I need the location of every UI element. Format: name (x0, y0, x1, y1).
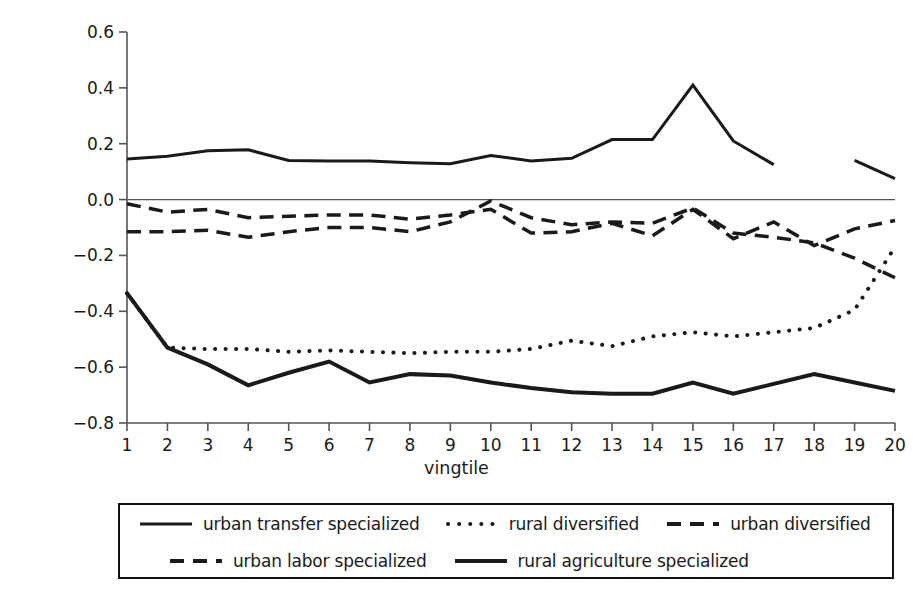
chart-figure: equivalent variation as a % of income 0.… (0, 0, 913, 608)
x-tick-label: 14 (642, 435, 664, 455)
series-line-0 (855, 160, 895, 178)
x-tick-label: 7 (364, 435, 375, 455)
series-line-4 (127, 293, 895, 394)
x-tick-label: 15 (682, 435, 704, 455)
plot-area: 0.60.40.20.0−0.2−0.4−0.6−0.8123456789101… (0, 0, 913, 500)
legend-item[interactable]: rural agriculture specialized (453, 551, 749, 571)
legend-item[interactable]: urban labor specialized (168, 551, 427, 571)
x-tick-label: 17 (763, 435, 785, 455)
x-tick-label: 16 (722, 435, 744, 455)
y-tick-label: 0.4 (87, 78, 114, 98)
y-tick-label: −0.6 (73, 357, 114, 377)
legend-item[interactable]: urban diversified (665, 514, 870, 534)
legend-item-label: rural diversified (509, 514, 639, 534)
series-line-1 (127, 247, 895, 353)
y-tick-label: 0.6 (87, 22, 114, 42)
x-tick-label: 19 (844, 435, 866, 455)
legend-swatch-dashed (168, 554, 224, 568)
y-tick-label: 0.0 (87, 190, 114, 210)
x-tick-label: 11 (520, 435, 542, 455)
x-tick-label: 4 (243, 435, 254, 455)
x-tick-label: 12 (561, 435, 583, 455)
x-tick-label: 10 (480, 435, 502, 455)
y-tick-label: −0.2 (73, 245, 114, 265)
series-line-3 (127, 201, 895, 278)
x-tick-label: 8 (405, 435, 416, 455)
x-tick-label: 5 (283, 435, 294, 455)
legend-row: urban transfer specializedrural diversif… (120, 505, 892, 542)
x-tick-label: 20 (884, 435, 906, 455)
legend-swatch-solid (138, 517, 194, 531)
series-line-0 (127, 85, 774, 165)
x-tick-label: 6 (324, 435, 335, 455)
legend-item-label: urban labor specialized (233, 551, 427, 571)
x-tick-label: 18 (803, 435, 825, 455)
legend-item[interactable]: urban transfer specialized (138, 514, 420, 534)
legend-swatch-dashed (665, 517, 721, 531)
x-tick-label: 2 (162, 435, 173, 455)
y-tick-label: −0.4 (73, 301, 114, 321)
y-tick-label: 0.2 (87, 134, 114, 154)
legend-row: urban labor specializedrural agriculture… (120, 542, 892, 579)
legend-item[interactable]: rural diversified (446, 514, 639, 534)
chart-legend: urban transfer specializedrural diversif… (118, 503, 894, 579)
y-tick-label: −0.8 (73, 413, 114, 433)
legend-swatch-dotted (446, 517, 500, 531)
x-tick-label: 13 (601, 435, 623, 455)
x-tick-label: 1 (122, 435, 133, 455)
legend-swatch-solid (453, 554, 509, 568)
x-axis-label: vingtile (0, 458, 913, 478)
x-tick-label: 3 (202, 435, 213, 455)
legend-item-label: rural agriculture specialized (518, 551, 749, 571)
x-tick-label: 9 (445, 435, 456, 455)
legend-item-label: urban diversified (730, 514, 870, 534)
legend-item-label: urban transfer specialized (203, 514, 420, 534)
